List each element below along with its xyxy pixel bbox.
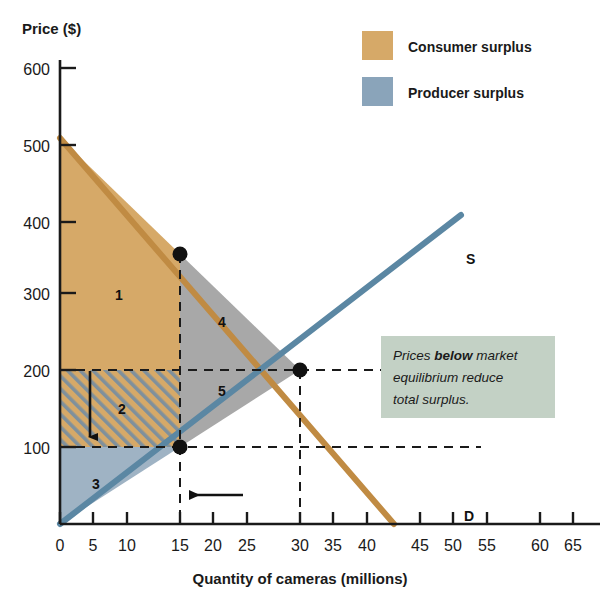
- x-tick-20: 20: [204, 537, 222, 554]
- y-tick-400: 400: [23, 215, 50, 232]
- x-tick-25: 25: [238, 537, 256, 554]
- x-tick-15: 15: [171, 537, 189, 554]
- callout-box: Prices below market equilibrium reduce t…: [381, 336, 555, 418]
- x-tick-45: 45: [411, 537, 429, 554]
- callout-line1-bold: below: [434, 348, 474, 363]
- x-tick-0: 0: [56, 537, 65, 554]
- region-label-3: 3: [92, 476, 100, 492]
- callout-line-2: equilibrium reduce: [393, 370, 503, 385]
- legend-swatch-consumer-surplus: [362, 31, 393, 60]
- x-tick-10: 10: [118, 537, 136, 554]
- x-tick-55: 55: [478, 537, 496, 554]
- figure-canvas: 600 500 400 300 200 100 0 5 10 15 20 25 …: [0, 0, 607, 600]
- callout-line-3: total surplus.: [393, 392, 470, 407]
- region-label-2: 2: [118, 401, 126, 417]
- y-tick-100: 100: [23, 440, 50, 457]
- x-tick-50: 50: [444, 537, 462, 554]
- y-axis-title: Price ($): [22, 20, 81, 37]
- y-tick-200: 200: [23, 363, 50, 380]
- y-tick-500: 500: [23, 138, 50, 155]
- y-tick-labels: 600 500 400 300 200 100: [23, 61, 50, 457]
- y-tick-600: 600: [23, 61, 50, 78]
- x-tick-60: 60: [531, 537, 549, 554]
- supply-curve-label: S: [466, 251, 475, 267]
- marker-point-equilibrium: [293, 363, 308, 378]
- x-axis-ticks: [60, 512, 573, 524]
- economics-surplus-chart: 600 500 400 300 200 100 0 5 10 15 20 25 …: [0, 0, 607, 600]
- legend-label-consumer-surplus: Consumer surplus: [408, 39, 532, 55]
- region-label-5: 5: [218, 383, 226, 399]
- marker-point-15-350: [173, 247, 188, 262]
- legend-swatch-producer-surplus: [362, 77, 393, 106]
- region-label-1: 1: [115, 287, 123, 303]
- y-tick-300: 300: [23, 286, 50, 303]
- x-tick-35: 35: [324, 537, 342, 554]
- x-tick-labels: 0 5 10 15 20 25 30 35 40 45 50 55 60 65: [56, 537, 582, 554]
- region-label-4: 4: [218, 314, 226, 330]
- x-tick-40: 40: [358, 537, 376, 554]
- x-axis-title: Quantity of cameras (millions): [192, 570, 407, 587]
- x-tick-30: 30: [291, 537, 309, 554]
- demand-curve-label: D: [464, 508, 474, 524]
- callout-line1-post: market: [473, 348, 519, 363]
- callout-line1-pre: Prices: [393, 348, 434, 363]
- legend-label-producer-surplus: Producer surplus: [408, 85, 524, 101]
- callout-line-1: Prices below market: [393, 348, 519, 363]
- legend: Consumer surplus Producer surplus: [362, 31, 532, 106]
- x-tick-65: 65: [564, 537, 582, 554]
- x-tick-5: 5: [89, 537, 98, 554]
- marker-point-15-100: [173, 440, 188, 455]
